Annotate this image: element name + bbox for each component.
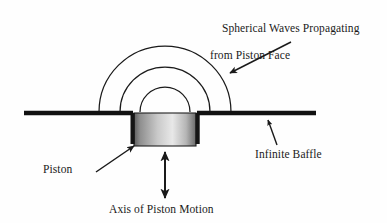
label-piston: Piston <box>43 163 72 177</box>
piston-body <box>131 113 200 146</box>
label-infinite-baffle: Infinite Baffle <box>255 148 322 162</box>
label-spherical-waves-line1: Spherical Waves Propagating <box>222 22 360 34</box>
figure-canvas: Spherical Waves Propagating from Piston … <box>0 0 387 223</box>
label-axis-of-piston-motion: Axis of Piston Motion <box>109 203 214 217</box>
wave-arc-middle <box>120 67 210 112</box>
piston-left-wall <box>131 113 135 144</box>
piston-leader-arrow <box>96 146 134 172</box>
label-spherical-waves: Spherical Waves Propagating from Piston … <box>210 8 360 89</box>
baffle-leader-arrow <box>268 120 277 145</box>
label-spherical-waves-line2: from Piston Face <box>210 49 360 63</box>
piston-right-wall <box>196 113 200 144</box>
wave-arc-inner <box>140 87 190 112</box>
